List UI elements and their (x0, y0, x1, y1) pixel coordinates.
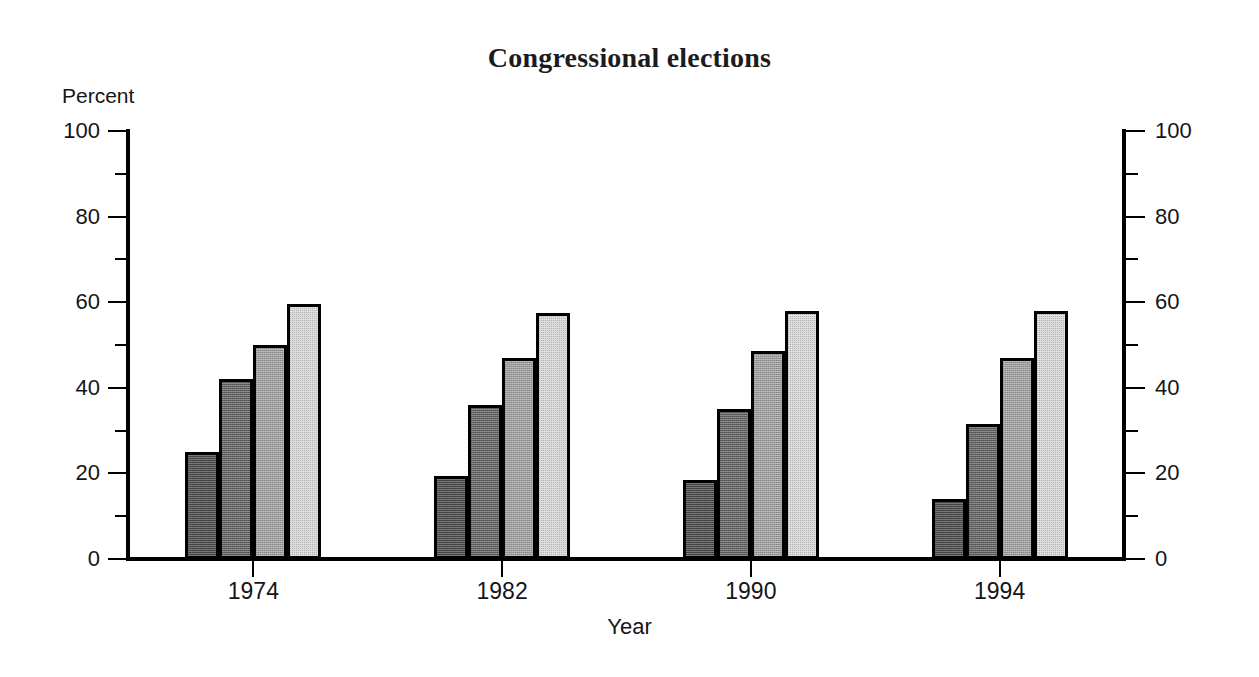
y-axis-right-label-100: 100 (1155, 120, 1192, 142)
bar-texture (222, 382, 250, 556)
y-axis-right-label-80: 80 (1155, 206, 1179, 228)
bar-texture (686, 483, 714, 556)
y-tick-left-40 (108, 387, 129, 389)
page-title: Congressional elections (0, 42, 1259, 74)
bar-texture (720, 412, 748, 556)
y-axis-left-label-20: 20 (76, 462, 100, 484)
y-axis-left-label-80: 80 (76, 206, 100, 228)
bar-1990-series-1 (683, 480, 717, 559)
y-axis-right-label-40: 40 (1155, 377, 1179, 399)
bar-texture (505, 361, 533, 556)
bar-texture (290, 307, 318, 556)
bar-1994-series-1 (932, 499, 966, 559)
bar-1982-series-2 (468, 405, 502, 559)
bar-texture (539, 316, 567, 556)
x-axis-label-1994: 1994 (940, 578, 1060, 605)
bar-1974-series-4 (287, 304, 321, 559)
y-minor-tick-left-90 (115, 173, 129, 175)
x-axis-label-1982: 1982 (442, 578, 562, 605)
y-axis-left-label-60: 60 (76, 291, 100, 313)
y-tick-right-40 (1124, 387, 1145, 389)
x-tick-1990 (750, 561, 752, 577)
bar-1990-series-4 (785, 311, 819, 559)
y-axis-right-label-60: 60 (1155, 291, 1179, 313)
y-minor-tick-left-30 (115, 430, 129, 432)
x-axis-label-1974: 1974 (193, 578, 313, 605)
y-tick-left-60 (108, 301, 129, 303)
bar-1994-series-4 (1034, 311, 1068, 559)
bar-1974-series-2 (219, 379, 253, 559)
y-minor-tick-right-70 (1124, 258, 1138, 260)
bar-texture (188, 455, 216, 556)
y-minor-tick-right-30 (1124, 430, 1138, 432)
bar-1994-series-3 (1000, 358, 1034, 559)
y-axis-left-label-100: 100 (63, 120, 100, 142)
x-tick-1982 (501, 561, 503, 577)
y-tick-left-20 (108, 472, 129, 474)
bar-texture (1003, 361, 1031, 556)
y-tick-left-80 (108, 216, 129, 218)
x-axis-title: Year (0, 614, 1259, 640)
y-axis-left-label-40: 40 (76, 377, 100, 399)
bar-texture (935, 502, 963, 556)
bar-1990-series-2 (717, 409, 751, 559)
y-axis-unit-label: Percent (62, 84, 134, 108)
y-minor-tick-right-90 (1124, 173, 1138, 175)
x-tick-1994 (999, 561, 1001, 577)
bar-1982-series-3 (502, 358, 536, 559)
bar-1982-series-1 (434, 476, 468, 559)
y-minor-tick-right-50 (1124, 344, 1138, 346)
bar-texture (754, 354, 782, 556)
y-tick-right-60 (1124, 301, 1145, 303)
bar-texture (471, 408, 499, 556)
y-minor-tick-left-70 (115, 258, 129, 260)
x-axis-label-1990: 1990 (691, 578, 811, 605)
bar-1990-series-3 (751, 351, 785, 559)
y-tick-left-100 (108, 130, 129, 132)
y-minor-tick-left-10 (115, 515, 129, 517)
chart-figure: Congressional elections Percent 00202040… (0, 0, 1259, 677)
y-minor-tick-right-10 (1124, 515, 1138, 517)
y-tick-right-80 (1124, 216, 1145, 218)
y-tick-left-0 (108, 558, 129, 560)
y-tick-right-0 (1124, 558, 1145, 560)
y-axis-left-label-0: 0 (88, 548, 100, 570)
y-axis-right-label-0: 0 (1155, 548, 1167, 570)
bar-1974-series-1 (185, 452, 219, 559)
bar-texture (437, 479, 465, 556)
bar-texture (969, 427, 997, 556)
bar-texture (256, 348, 284, 556)
bar-texture (788, 314, 816, 556)
y-minor-tick-left-50 (115, 344, 129, 346)
bar-1974-series-3 (253, 345, 287, 559)
y-tick-right-100 (1124, 130, 1145, 132)
y-axis-right-label-20: 20 (1155, 462, 1179, 484)
x-tick-1974 (252, 561, 254, 577)
bar-1994-series-2 (966, 424, 1000, 559)
bar-1982-series-4 (536, 313, 570, 559)
bar-texture (1037, 314, 1065, 556)
y-tick-right-20 (1124, 472, 1145, 474)
